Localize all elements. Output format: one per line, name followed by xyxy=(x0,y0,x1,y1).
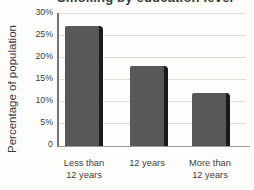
y-tick-5: 5% xyxy=(25,117,53,128)
bar-more-than-12-years xyxy=(192,93,230,146)
bar-less-than-12-years xyxy=(65,26,103,146)
y-axis-line xyxy=(57,13,59,146)
y-tick-15: 15% xyxy=(25,73,53,84)
chart-title-cropped: Smoking by education level xyxy=(0,0,254,5)
y-tick-25: 25% xyxy=(25,29,53,40)
x-label-line: 12 years xyxy=(170,170,250,182)
y-tick-10: 10% xyxy=(25,95,53,106)
plot-area xyxy=(57,13,247,146)
y-tick-30: 30% xyxy=(25,7,53,18)
gridline-30 xyxy=(57,13,246,14)
x-axis-line xyxy=(57,146,250,148)
chart-title: Smoking by education level xyxy=(57,0,233,5)
bar-chart-figure: Smoking by education level Percentage of… xyxy=(0,0,254,190)
x-label-more-than-12-years: More than 12 years xyxy=(170,158,250,181)
bar-12-years xyxy=(130,66,168,146)
y-axis-label: Percentage of population xyxy=(6,25,18,153)
y-tick-0: 0 xyxy=(25,139,53,150)
x-label-line: More than xyxy=(170,158,250,170)
y-tick-20: 20% xyxy=(25,51,53,62)
x-label-line: 12 years xyxy=(44,170,124,182)
